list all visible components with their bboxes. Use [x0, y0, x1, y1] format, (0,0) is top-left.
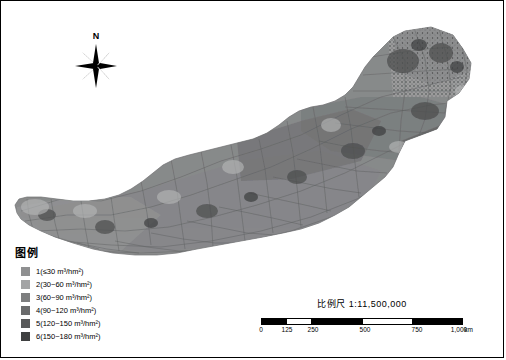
- legend-swatch-6: [21, 332, 30, 341]
- legend-item: 5(120~150 m³/hm²): [15, 317, 135, 329]
- legend-item: 1(≤30 m³/hm²): [15, 265, 135, 277]
- north-arrow-label: N: [73, 31, 119, 41]
- north-arrow: N: [73, 31, 119, 89]
- legend-swatch-1: [21, 267, 30, 276]
- scale-tick-2: 250: [308, 326, 319, 333]
- legend-item: 4(90~120 m³/hm²): [15, 304, 135, 316]
- scale-bar: 比例尺 1:11,500,000 0 125 250 500 750 1,000…: [253, 297, 471, 335]
- legend-label-4: 4(90~120 m³/hm²): [36, 306, 96, 315]
- scale-tick-0: 0: [259, 326, 263, 333]
- legend-label-5: 5(120~150 m³/hm²): [36, 319, 100, 328]
- legend-label-6: 6(150~180 m³/hm²): [36, 332, 100, 341]
- legend-label-2: 2(30~60 m³/hm²): [36, 280, 92, 289]
- legend-swatch-3: [21, 293, 30, 302]
- map-frame: N 图例 1(≤30 m³/hm²) 2(30~60 m³/hm²) 3(60~…: [0, 0, 504, 358]
- legend-swatch-5: [21, 319, 30, 328]
- scale-tick-3: 500: [360, 326, 371, 333]
- scale-tick-1: 125: [282, 326, 293, 333]
- scale-unit-label: km: [464, 326, 473, 333]
- legend-label-3: 3(60~90 m³/hm²): [36, 293, 92, 302]
- legend-item: 6(150~180 m³/hm²): [15, 330, 135, 342]
- north-arrow-icon: [73, 42, 119, 90]
- legend-swatch-2: [21, 280, 30, 289]
- scale-title: 比例尺 1:11,500,000: [253, 297, 471, 310]
- scale-bar-graphic: [261, 318, 463, 325]
- legend-item: 3(60~90 m³/hm²): [15, 291, 135, 303]
- scale-tick-4: 750: [412, 326, 423, 333]
- legend-label-1: 1(≤30 m³/hm²): [36, 267, 83, 276]
- legend-title: 图例: [15, 244, 135, 260]
- legend: 图例 1(≤30 m³/hm²) 2(30~60 m³/hm²) 3(60~90…: [15, 244, 135, 343]
- scale-tick-labels: 0 125 250 500 750 1,000 km: [253, 325, 471, 335]
- legend-item: 2(30~60 m³/hm²): [15, 278, 135, 290]
- legend-swatch-4: [21, 306, 30, 315]
